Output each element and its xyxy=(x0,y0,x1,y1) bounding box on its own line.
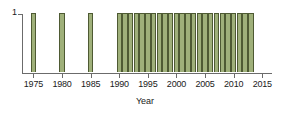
bar xyxy=(59,13,64,72)
bar xyxy=(151,13,156,72)
x-axis-tick-label: 1975 xyxy=(18,79,48,90)
x-axis-tick xyxy=(91,74,92,78)
x-axis-tick-label: 1980 xyxy=(47,79,77,90)
bar xyxy=(191,13,196,72)
y-axis-tick-label: 1 xyxy=(8,7,17,17)
x-axis-tick xyxy=(62,74,63,78)
bar xyxy=(88,13,93,72)
bar xyxy=(231,13,236,72)
bar xyxy=(237,13,242,72)
plot-area xyxy=(22,14,268,72)
x-axis-tick xyxy=(33,74,34,78)
x-axis-tick-label: 1995 xyxy=(133,79,163,90)
bar xyxy=(248,13,253,72)
x-axis-tick-label: 2015 xyxy=(247,79,277,90)
x-axis-tick-label: 2000 xyxy=(161,79,191,90)
bar xyxy=(168,13,173,72)
bar xyxy=(225,13,230,72)
x-axis-tick xyxy=(176,74,177,78)
bar xyxy=(214,13,219,72)
bar xyxy=(185,13,190,72)
bar xyxy=(208,13,213,72)
bar xyxy=(220,13,225,72)
bar-chart: 1 197519801985199019952000200520102015 Y… xyxy=(0,0,290,115)
x-axis-tick-label: 2010 xyxy=(219,79,249,90)
x-axis-tick-label: 1985 xyxy=(76,79,106,90)
y-axis-tick xyxy=(18,14,22,15)
bar xyxy=(117,13,122,72)
bar xyxy=(179,13,184,72)
bar xyxy=(128,13,133,72)
bar xyxy=(122,13,127,72)
x-axis-tick-label: 2005 xyxy=(190,79,220,90)
x-axis-tick xyxy=(148,74,149,78)
x-axis-tick xyxy=(119,74,120,78)
bar xyxy=(202,13,207,72)
x-axis-tick xyxy=(205,74,206,78)
x-axis-title: Year xyxy=(0,96,290,106)
x-axis-tick xyxy=(262,74,263,78)
bar xyxy=(174,13,179,72)
bar xyxy=(157,13,162,72)
bar xyxy=(242,13,247,72)
x-axis-tick-label: 1990 xyxy=(104,79,134,90)
bar xyxy=(197,13,202,72)
bar xyxy=(162,13,167,72)
bar xyxy=(134,13,139,72)
y-axis-line xyxy=(22,14,23,73)
bar xyxy=(31,13,36,72)
bar xyxy=(139,13,144,72)
bar xyxy=(145,13,150,72)
x-axis-tick xyxy=(234,74,235,78)
